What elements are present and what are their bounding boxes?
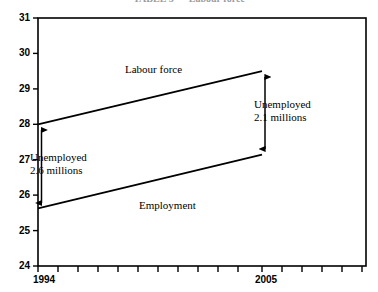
y-tick-label-29: 29: [0, 84, 30, 94]
series-label-labour-force: Labour force: [125, 63, 182, 75]
chart-container: TABLE 3 — Labour force: [0, 0, 378, 292]
y-tick-label-28: 28: [0, 119, 30, 129]
x-tick-label-1994: 1994: [14, 275, 74, 285]
y-tick-label-25: 25: [0, 226, 30, 236]
y-tick-label-24: 24: [0, 261, 30, 271]
x-axis-ticks: [38, 266, 362, 272]
x-tick-label-2005: 2005: [236, 275, 296, 285]
y-tick-label-31: 31: [0, 13, 30, 23]
y-tick-label-27: 27: [0, 155, 30, 165]
y-tick-label-26: 26: [0, 190, 30, 200]
annotation-unemployed-2005-line1: Unemployed: [254, 99, 311, 111]
y-tick-label-30: 30: [0, 48, 30, 58]
annotation-unemployed-1994-line2: 2.6 millions: [30, 165, 83, 177]
series-label-employment: Employment: [139, 199, 196, 211]
annotation-unemployed-1994-line1: Unemployed: [30, 152, 87, 164]
plot-area: [0, 0, 378, 292]
plot-frame: [38, 18, 366, 266]
annotation-unemployed-2005-line2: 2.1 millions: [254, 112, 307, 124]
